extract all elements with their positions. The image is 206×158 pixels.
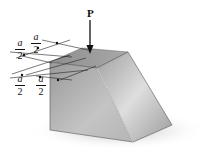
dimension-label-4: a 2 (36, 74, 46, 97)
dimension-label-1: a 2 (31, 32, 41, 55)
load-label: P (87, 8, 94, 19)
block-drawing (0, 0, 206, 158)
dimension-label-2: a 2 (15, 38, 25, 61)
dimension-label-3: a 2 (15, 74, 25, 97)
diagram: P a 2 a 2 a 2 a 2 (0, 0, 206, 158)
